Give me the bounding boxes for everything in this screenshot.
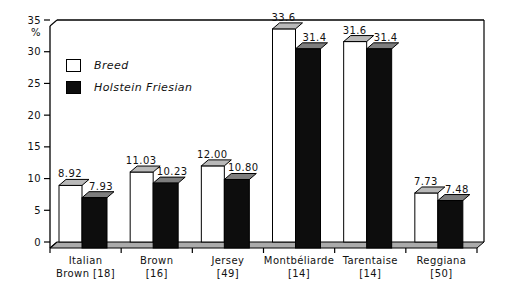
value-label-holstein-friesian-2: 10.80 — [228, 162, 259, 173]
legend-label-breed: Breed — [81, 59, 129, 72]
category-label-3-line1: Montbéliarde — [264, 255, 334, 266]
category-label-4-line2: [14] — [359, 268, 381, 279]
bar-breed-top-1 — [130, 166, 160, 172]
value-label-breed-2: 12.00 — [197, 149, 228, 160]
bar-holstein-friesian-0 — [82, 198, 107, 248]
legend-item-breed: Breed — [66, 59, 192, 72]
y-tick-label-15: 15 — [27, 141, 41, 152]
value-label-breed-5: 7.73 — [414, 176, 438, 187]
legend-label-holstein-friesian: Holstein Friesian — [81, 81, 192, 94]
bar-breed-5 — [415, 193, 438, 242]
value-label-holstein-friesian-0: 7.93 — [89, 181, 113, 192]
category-label-2-line2: [49] — [217, 268, 239, 279]
value-label-holstein-friesian-1: 10.23 — [157, 166, 188, 177]
value-label-breed-3: 33.6 — [272, 12, 296, 23]
category-label-2-line1: Jersey — [210, 255, 244, 266]
bar-holstein-friesian-top-3 — [296, 43, 328, 49]
category-label-3-line2: [14] — [288, 268, 310, 279]
y-axis-unit-label: % — [31, 27, 41, 38]
bar-breed-1 — [130, 172, 153, 242]
chart-container: 05101520253035%8.927.93ItalianBrown [18]… — [0, 0, 512, 293]
bar-holstein-friesian-4 — [367, 49, 392, 248]
category-label-0-line2: Brown [18] — [56, 268, 115, 279]
bar-breed-3 — [273, 29, 296, 242]
bar-holstein-friesian-top-1 — [153, 177, 185, 183]
value-label-breed-0: 8.92 — [58, 168, 82, 179]
legend-item-holstein-friesian: Holstein Friesian — [66, 81, 192, 94]
y-tick-label-35: 35 — [27, 15, 41, 26]
value-label-holstein-friesian-5: 7.48 — [445, 184, 469, 195]
category-label-5-line1: Reggiana — [416, 255, 466, 266]
chart-legend: Breed Holstein Friesian — [66, 59, 192, 94]
bar-breed-0 — [59, 185, 82, 242]
category-label-1-line2: [16] — [146, 268, 168, 279]
value-label-breed-1: 11.03 — [126, 155, 157, 166]
value-label-breed-4: 31.6 — [343, 25, 367, 36]
bar-breed-4 — [344, 42, 367, 242]
bar-holstein-friesian-2 — [224, 179, 249, 248]
y-tick-label-20: 20 — [27, 110, 41, 121]
bar-breed-2 — [201, 166, 224, 242]
bar-holstein-friesian-top-4 — [367, 43, 399, 49]
category-label-0-line1: Italian — [69, 255, 103, 266]
bar-holstein-friesian-1 — [153, 183, 178, 248]
bar-breed-top-0 — [59, 179, 89, 185]
bar-breed-top-2 — [201, 160, 231, 166]
value-label-holstein-friesian-4: 31.4 — [374, 32, 398, 43]
bar-breed-top-4 — [344, 36, 374, 42]
bar-breed-top-5 — [415, 187, 445, 193]
y-axis-top-depth-edge — [50, 20, 57, 26]
bar-holstein-friesian-top-2 — [224, 173, 256, 179]
value-label-holstein-friesian-3: 31.4 — [303, 32, 327, 43]
bar-holstein-friesian-top-0 — [82, 192, 114, 198]
y-tick-label-0: 0 — [34, 237, 41, 248]
bar-holstein-friesian-5 — [438, 201, 463, 248]
y-tick-label-30: 30 — [27, 46, 41, 57]
category-label-5-line2: [50] — [430, 268, 452, 279]
category-label-4-line1: Tarentaise — [342, 255, 398, 266]
y-tick-label-25: 25 — [27, 78, 41, 89]
chart-floor — [50, 242, 484, 248]
bar-holstein-friesian-top-5 — [438, 195, 470, 201]
bar-breed-top-3 — [273, 23, 303, 29]
category-label-1-line1: Brown — [140, 255, 173, 266]
y-tick-label-5: 5 — [34, 205, 41, 216]
bar-holstein-friesian-3 — [296, 49, 321, 248]
legend-swatch-breed — [66, 59, 81, 72]
bar-chart-svg: 05101520253035%8.927.93ItalianBrown [18]… — [0, 0, 512, 293]
legend-swatch-holstein-friesian — [66, 81, 81, 94]
y-tick-label-10: 10 — [27, 173, 41, 184]
